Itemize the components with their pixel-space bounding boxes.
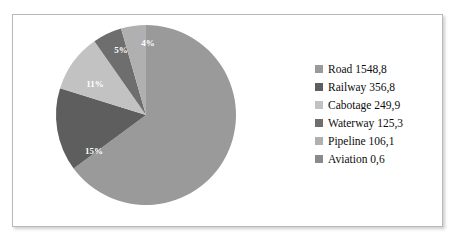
legend-item-4[interactable]: Pipeline 106,1 [301, 132, 441, 150]
legend-item-label: Road 1548,8 [328, 60, 387, 78]
legend-item-label: Railway 356,8 [328, 78, 395, 96]
pie-slice-label-pipeline: 4% [141, 38, 155, 48]
pie-slice-label-waterway: 5% [114, 45, 128, 55]
legend-item-3[interactable]: Waterway 125,3 [301, 114, 441, 132]
legend-item-1[interactable]: Railway 356,8 [301, 78, 441, 96]
legend-swatch-icon [315, 119, 323, 127]
pie-slice-group [56, 25, 236, 205]
legend-item-label: Pipeline 106,1 [328, 132, 394, 150]
legend-swatch-icon [315, 101, 323, 109]
legend-item-2[interactable]: Cabotage 249,9 [301, 96, 441, 114]
legend-item-label: Waterway 125,3 [328, 114, 403, 132]
legend-swatch-icon [315, 137, 323, 145]
pie-slice-label-railway: 15% [85, 146, 103, 156]
legend-item-label: Cabotage 249,9 [328, 96, 400, 114]
chart-frame: 65%15%11%5%4% Road 1548,8Railway 356,8Ca… [12, 14, 443, 227]
legend-item-5[interactable]: Aviation 0,6 [301, 150, 441, 168]
pie-chart-plot-area: 65%15%11%5%4% [13, 15, 293, 226]
legend-item-label: Aviation 0,6 [328, 150, 385, 168]
legend-swatch-icon [315, 83, 323, 91]
pie-slice-label-cabotage: 11% [86, 79, 104, 89]
legend-swatch-icon [315, 155, 323, 163]
legend-item-0[interactable]: Road 1548,8 [301, 60, 441, 78]
chart-legend: Road 1548,8Railway 356,8Cabotage 249,9Wa… [301, 60, 441, 168]
pie-chart: 65%15%11%5%4% [53, 22, 239, 208]
legend-swatch-icon [315, 65, 323, 73]
